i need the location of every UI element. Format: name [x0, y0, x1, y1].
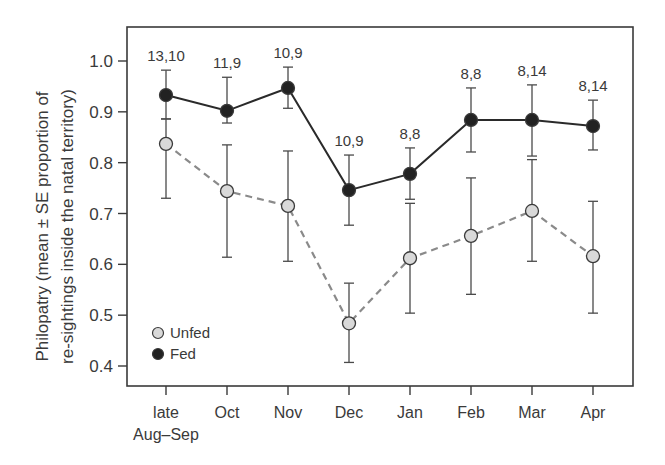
sample-size-label: 10,9 — [273, 44, 302, 61]
y-tick-label: 0.7 — [89, 205, 113, 224]
sample-size-label: 11,9 — [213, 54, 241, 71]
data-point-unfed — [343, 317, 356, 330]
x-tick-label: Oct — [215, 404, 240, 421]
y-axis: 0.40.50.60.70.80.91.0 — [89, 52, 127, 376]
data-point-unfed — [465, 229, 478, 242]
y-tick-label: 0.8 — [89, 154, 113, 173]
y-axis-label-line: Philopatry (mean ± SE proportion of — [33, 91, 52, 361]
sample-size-annotations: 13,1011,910,910,98,88,88,148,14 — [147, 44, 607, 149]
x-tick-label: Aug–Sep — [133, 426, 199, 443]
data-point-fed — [160, 89, 173, 102]
data-point-unfed — [160, 137, 173, 150]
philopatry-chart: Philopatry (mean ± SE proportion ofre-si… — [0, 0, 665, 465]
data-point-fed — [282, 81, 295, 94]
data-point-fed — [587, 120, 600, 133]
x-tick-label: late — [153, 404, 179, 421]
data-point-fed — [343, 184, 356, 197]
x-tick-label: Apr — [581, 404, 607, 421]
x-tick-label: Jan — [397, 404, 423, 421]
data-point-unfed — [282, 199, 295, 212]
y-tick-label: 1.0 — [89, 52, 113, 71]
x-tick-label: Mar — [518, 404, 546, 421]
series-line-unfed — [166, 144, 593, 323]
x-tick-label: Nov — [274, 404, 302, 421]
y-tick-label: 0.6 — [89, 255, 113, 274]
data-point-fed — [404, 167, 417, 180]
x-tick-label: Feb — [457, 404, 485, 421]
series-markers — [160, 81, 600, 329]
y-tick-label: 0.4 — [89, 357, 113, 376]
y-tick-label: 0.5 — [89, 306, 113, 325]
data-point-fed — [526, 113, 539, 126]
legend-label-fed: Fed — [170, 345, 196, 362]
legend-marker-fed — [153, 349, 164, 360]
legend-label-unfed: Unfed — [170, 324, 210, 341]
data-point-fed — [221, 104, 234, 117]
data-point-unfed — [404, 252, 417, 265]
sample-size-label: 10,9 — [334, 132, 363, 149]
sample-size-label: 8,14 — [578, 77, 607, 94]
y-axis-label-line: re-sightings inside the natal territory) — [58, 89, 77, 364]
legend: UnfedFed — [153, 324, 211, 362]
y-axis-label: Philopatry (mean ± SE proportion ofre-si… — [33, 89, 77, 364]
legend-marker-unfed — [153, 328, 164, 339]
x-tick-label: Dec — [335, 404, 363, 421]
sample-size-label: 13,10 — [147, 47, 185, 64]
data-point-unfed — [221, 185, 234, 198]
series-line-fed — [166, 88, 593, 190]
data-point-fed — [465, 113, 478, 126]
y-tick-label: 0.9 — [89, 103, 113, 122]
sample-size-label: 8,8 — [400, 125, 421, 142]
data-point-unfed — [526, 204, 539, 217]
sample-size-label: 8,14 — [517, 62, 546, 79]
x-axis: lateAug–SepOctNovDecJanFebMarApr — [133, 386, 606, 443]
sample-size-label: 8,8 — [461, 65, 482, 82]
data-point-unfed — [587, 250, 600, 263]
